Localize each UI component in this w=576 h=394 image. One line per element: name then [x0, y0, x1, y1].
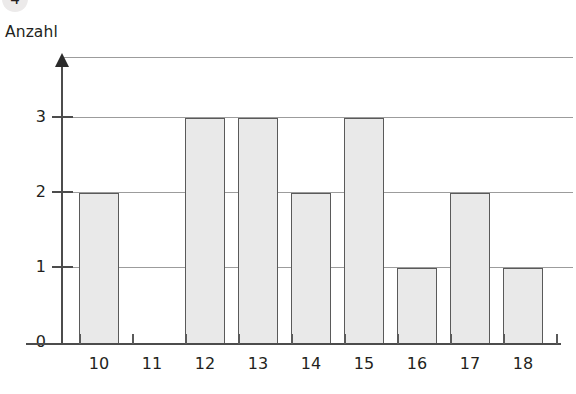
bar-15[interactable] [344, 118, 384, 343]
x-tick-label-16: 16 [390, 355, 444, 373]
y-tick-label-1: 1 [18, 259, 46, 275]
x-tick-mark-2 [185, 334, 187, 344]
bar-16[interactable] [397, 268, 437, 343]
y-tick-mark-3 [52, 116, 73, 118]
x-tick-label-12: 12 [178, 355, 232, 373]
x-tick-mark-8 [503, 334, 505, 344]
bar-14[interactable] [291, 193, 331, 343]
x-tick-mark-3 [238, 334, 240, 344]
y-axis-line [61, 62, 63, 344]
x-tick-label-17: 17 [443, 355, 497, 373]
x-tick-label-15: 15 [337, 355, 391, 373]
y-axis-arrow-icon [55, 53, 69, 67]
y-tick-label-2: 2 [18, 184, 46, 200]
x-tick-label-13: 13 [231, 355, 285, 373]
x-tick-mark-9 [556, 334, 558, 344]
y-tick-mark-2 [52, 191, 73, 193]
x-tick-label-11: 11 [125, 355, 179, 373]
y-tick-label-3: 3 [18, 109, 46, 125]
x-tick-mark-4 [291, 334, 293, 344]
x-tick-label-18: 18 [496, 355, 550, 373]
x-tick-mark-6 [397, 334, 399, 344]
x-tick-mark-0 [79, 334, 81, 344]
bar-13[interactable] [238, 118, 278, 343]
bar-17[interactable] [450, 193, 490, 343]
y-tick-mark-1 [52, 266, 73, 268]
x-tick-label-14: 14 [284, 355, 338, 373]
y-tick-label-0: 0 [18, 334, 46, 350]
x-tick-label-10: 10 [72, 355, 126, 373]
bar-18[interactable] [503, 268, 543, 343]
x-axis-line [26, 343, 561, 345]
bar-chart: 3 2 1 0 10 11 12 13 14 15 16 17 18 [0, 0, 576, 394]
x-tick-mark-5 [344, 334, 346, 344]
x-tick-mark-1 [132, 334, 134, 344]
x-tick-mark-7 [450, 334, 452, 344]
gridline-3 [62, 117, 573, 118]
bar-12[interactable] [185, 118, 225, 343]
gridline-top [62, 57, 573, 58]
bar-10[interactable] [79, 193, 119, 343]
